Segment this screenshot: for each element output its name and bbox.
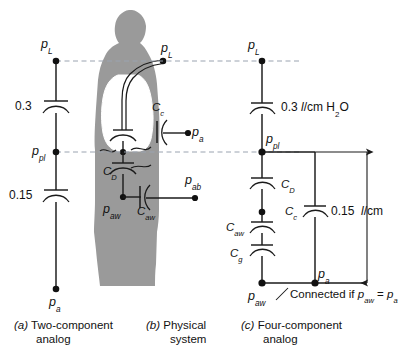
c-connected-note: Connected if paw = pa [290, 289, 398, 301]
c-cap-cg-curve [250, 249, 275, 256]
a-node-ppl [53, 149, 60, 156]
a-label-pL: pL [41, 38, 53, 51]
c-node-pL [259, 58, 266, 65]
c-label-pa: pa [318, 268, 330, 281]
c-dimension-value: 0.15 l/cm [331, 205, 383, 217]
b-label-Caw: Caw [137, 206, 155, 218]
a-cap-lower-curve [43, 195, 69, 202]
figure-vector [0, 0, 416, 354]
b-label-pL: pL [161, 42, 173, 55]
c-node-paw [258, 279, 265, 286]
a-label-pa: pa [49, 296, 61, 309]
a-value-lower-capacitor: 0.15 [9, 189, 32, 201]
b-node-pa [185, 130, 191, 136]
caption-panel-c: (c) Four-component analog [241, 318, 342, 346]
c-label-ppl: ppl [266, 133, 279, 146]
c-label-Cg: Cg [230, 248, 243, 260]
c-note-leader [276, 288, 288, 300]
c-label-pL: pL [248, 39, 260, 52]
b-label-CD: CD [103, 166, 117, 178]
c-cap-cc-curve [303, 210, 328, 217]
c-node-mid [259, 209, 266, 216]
b-label-pa: pa [192, 126, 204, 139]
c-label-paw: paw [248, 290, 266, 303]
a-node-pa [53, 286, 60, 293]
a-value-upper-capacitor: 0.3 [15, 100, 32, 112]
b-node-paw [192, 195, 198, 201]
c-label-Cc: Cc [285, 206, 297, 218]
c-cap-cd-curve [250, 182, 275, 189]
panel-a-circuit [44, 61, 68, 289]
caption-panel-a: (a) Two-component analog [14, 318, 113, 346]
c-cap-caw-curve [250, 226, 275, 233]
b-label-Cc: Cc [152, 102, 164, 114]
c-cap-top-curve [250, 107, 275, 114]
figure-canvas: pL 0.3 ppl 0.15 pa pL Cc pa CD paw Caw p… [0, 0, 416, 354]
c-label-Caw: Caw [226, 222, 244, 234]
c-label-CD: CD [281, 179, 295, 191]
lung-region [102, 75, 154, 151]
b-label-pab: paw [103, 203, 121, 216]
c-compliance-top-value: 0.3 l/cm H2O [281, 101, 349, 113]
c-node-ppl [258, 148, 265, 155]
a-node-pL [53, 58, 60, 65]
b-label-paw: pab [185, 174, 201, 187]
caption-panel-b: (b) Physical system [146, 318, 206, 346]
a-cap-upper-curve [43, 106, 69, 113]
a-label-ppl: ppl [32, 145, 45, 158]
